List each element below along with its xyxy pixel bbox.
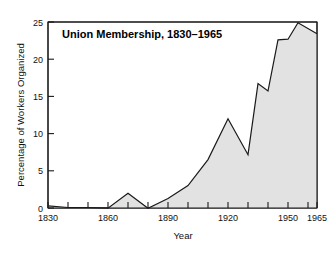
x-tick-label-1860: 1860 xyxy=(98,213,118,223)
y-tick-label-10: 10 xyxy=(33,129,43,139)
x-tick-label-1890: 1890 xyxy=(158,213,178,223)
x-tick-label-1965: 1965 xyxy=(307,213,327,223)
x-axis-tick-labels: 1830 1860 1890 1920 1950 1965 xyxy=(38,213,327,223)
x-tick-label-1920: 1920 xyxy=(218,213,238,223)
y-tick-label-25: 25 xyxy=(33,18,43,28)
x-axis-title: Year xyxy=(173,230,192,241)
x-tick-label-1950: 1950 xyxy=(278,213,298,223)
chart-title: Union Membership, 1830–1965 xyxy=(62,28,222,40)
y-axis-tick-labels: 0 5 10 15 20 25 xyxy=(33,18,43,214)
union-membership-area-chart: 0 5 10 15 20 25 1830 xyxy=(0,0,336,254)
y-axis-title: Percentage of Workers Organized xyxy=(15,43,26,186)
chart-figure: 0 5 10 15 20 25 1830 xyxy=(0,0,336,254)
y-tick-label-5: 5 xyxy=(38,166,43,176)
y-tick-label-15: 15 xyxy=(33,92,43,102)
y-tick-label-20: 20 xyxy=(33,55,43,65)
x-tick-label-1830: 1830 xyxy=(38,213,58,223)
y-tick-label-0: 0 xyxy=(38,204,43,214)
